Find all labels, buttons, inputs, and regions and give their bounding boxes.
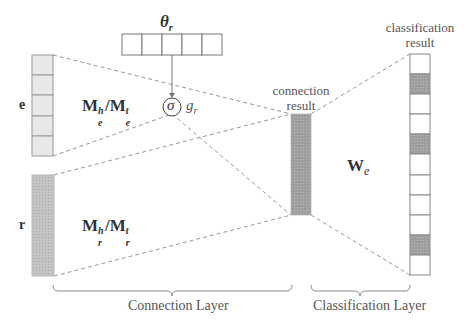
relation-vector xyxy=(32,175,54,276)
sup-t: t xyxy=(126,105,129,116)
sigma-label: σ xyxy=(167,97,174,114)
sub-e: e xyxy=(126,117,130,128)
entity-vector xyxy=(32,55,53,156)
entity-label: e xyxy=(19,97,25,113)
classification-layer-label: Classification Layer xyxy=(313,298,426,314)
gate-subscript: r xyxy=(194,105,198,116)
sub-r: r xyxy=(126,237,130,248)
theta-symbol: θ xyxy=(160,12,169,31)
relation-matrix-label: Mhr/Mtr xyxy=(82,216,133,236)
sup-h: h xyxy=(98,105,104,116)
connection-result-vector xyxy=(291,114,311,215)
connection-layer-label: Connection Layer xyxy=(128,298,229,314)
theta-label: θr xyxy=(160,12,173,33)
matrix-base: M xyxy=(110,96,126,115)
weight-symbol: W xyxy=(347,156,364,175)
classification-result-line1: classification xyxy=(380,20,460,35)
sup-h: h xyxy=(98,225,104,236)
weight-subscript: e xyxy=(364,164,369,178)
connection-result-line2: result xyxy=(266,98,336,113)
gate-label: gr xyxy=(186,97,197,116)
classification-result-label: classification result xyxy=(380,20,460,50)
connection-layer-brace xyxy=(53,285,292,296)
gate-symbol: g xyxy=(186,97,194,113)
classification-result-line2: result xyxy=(380,35,460,50)
weight-label: We xyxy=(347,156,369,179)
matrix-base: M xyxy=(82,216,98,235)
sub-r: r xyxy=(98,237,102,248)
classification-layer-brace xyxy=(311,285,410,296)
connection-result-line1: connection xyxy=(266,83,336,98)
arrow-theta-to-sigma xyxy=(169,55,175,98)
theta-vector xyxy=(122,34,222,55)
matrix-base: M xyxy=(82,96,98,115)
connection-result-label: connection result xyxy=(266,83,336,113)
relation-label: r xyxy=(19,217,25,233)
theta-subscript: r xyxy=(169,22,173,33)
sub-e: e xyxy=(98,117,102,128)
sup-t: t xyxy=(126,225,129,236)
classification-result-vector xyxy=(410,54,430,275)
matrix-base: M xyxy=(110,216,126,235)
entity-matrix-label: Mhe/Mte xyxy=(82,96,133,116)
